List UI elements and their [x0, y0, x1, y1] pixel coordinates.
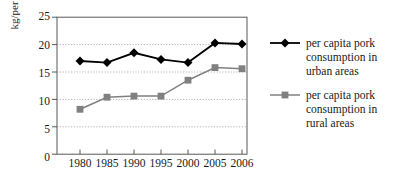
legend-label-urban-line3: urban areas	[306, 64, 407, 78]
data-point-rural-2005	[212, 64, 219, 71]
data-point-rural-2006	[239, 65, 246, 72]
data-point-rural-1980	[77, 106, 84, 113]
x-axis-ticks	[80, 150, 242, 155]
chart-legend: per capita pork consumption in urban are…	[268, 36, 407, 140]
legend-label-urban-line1: per capita pork	[306, 36, 407, 50]
data-point-urban-1990	[130, 48, 139, 57]
data-point-rural-1990	[131, 93, 138, 100]
data-point-rural-1985	[104, 94, 111, 101]
legend-label-rural-line2: consumption in	[306, 102, 407, 116]
legend-label-rural-line3: rural areas	[306, 116, 407, 130]
data-point-rural-1995	[158, 93, 165, 100]
legend-label-rural-line1: per capita pork	[306, 88, 407, 102]
series-rural	[77, 64, 246, 113]
data-point-rural-2000	[185, 77, 192, 84]
legend-marker-rural-icon	[268, 88, 302, 102]
plot-frame	[57, 17, 247, 154]
pork-consumption-line-chart: kg/per capita 25 20 15 10 5 0 1980 1985 …	[0, 0, 407, 186]
data-point-urban-1985	[103, 58, 112, 67]
data-point-urban-1980	[76, 57, 85, 66]
y-axis-ticks	[52, 17, 57, 154]
legend-entry-urban: per capita pork consumption in urban are…	[268, 36, 407, 78]
data-point-urban-2006	[238, 40, 247, 49]
series-urban	[76, 38, 247, 67]
legend-label-urban-line2: consumption in	[306, 50, 407, 64]
legend-entry-rural: per capita pork consumption in rural are…	[268, 88, 407, 130]
legend-marker-urban-icon	[268, 36, 302, 50]
data-point-urban-1995	[157, 55, 166, 64]
